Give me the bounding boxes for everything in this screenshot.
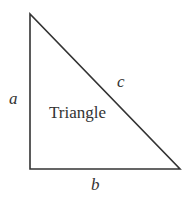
triangle-center-label: Triangle <box>49 103 106 122</box>
side-b-label: b <box>91 175 100 194</box>
triangle-shape <box>30 14 180 169</box>
triangle-diagram: a c b Triangle <box>0 0 192 197</box>
side-a-label: a <box>9 89 18 108</box>
side-c-label: c <box>117 72 125 91</box>
